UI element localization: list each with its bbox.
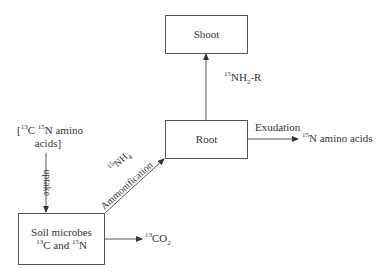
root-node: Root (165, 120, 248, 159)
exudation-label: Exudation (255, 121, 300, 134)
input-amino-acids-label: [13C 15N amino acids] (17, 124, 79, 150)
co2-label: 13CO2 (145, 232, 171, 245)
root-label: Root (196, 133, 217, 146)
output-amino-acids-label: 15N amino acids (302, 132, 373, 145)
shoot-node: Shoot (165, 15, 248, 54)
soil-microbes-label: Soil microbes (31, 226, 92, 239)
shoot-label: Shoot (194, 28, 220, 41)
uptake-label: uptake (41, 169, 54, 196)
root-to-shoot-label: 15NH2-R (224, 71, 261, 84)
soil-microbes-isotopes: 13C and 15N (36, 239, 87, 252)
soil-microbes-node: Soil microbes 13C and 15N (18, 213, 105, 265)
